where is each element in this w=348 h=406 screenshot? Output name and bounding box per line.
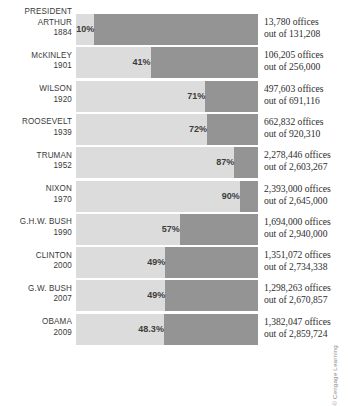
row-value-group: 1,382,047 officesout of 2,859,724 xyxy=(264,316,344,340)
chart-row: OBAMA200948.3%1,382,047 officesout of 2,… xyxy=(0,313,348,346)
bar-track: 49% xyxy=(76,247,258,278)
bar-percent-label: 49% xyxy=(76,280,169,311)
bar-track: 72% xyxy=(76,114,258,145)
row-label-group: NIXON1970 xyxy=(0,173,72,205)
offices-count: 2,278,446 offices xyxy=(264,149,344,161)
offices-count: 106,205 offices xyxy=(264,49,344,61)
label-spacer xyxy=(4,173,72,184)
offices-count: 2,393,000 offices xyxy=(264,183,344,195)
bar-percent-label: 90% xyxy=(76,181,244,212)
row-label-group: OBAMA2009 xyxy=(0,306,72,338)
row-value-group: 1,351,072 officesout of 2,734,338 xyxy=(264,249,344,273)
offices-total: out of 2,734,338 xyxy=(264,261,344,273)
bar-percent-label: 48.3% xyxy=(76,314,168,345)
offices-count: 1,694,000 offices xyxy=(264,216,344,228)
label-spacer xyxy=(4,139,72,150)
year-label: 1939 xyxy=(4,127,72,138)
year-label: 1901 xyxy=(4,60,72,71)
row-label-group: McKINLEY1901 xyxy=(0,39,72,71)
year-label: 1970 xyxy=(4,194,72,205)
bar-track: 87% xyxy=(76,147,258,178)
label-spacer xyxy=(4,73,72,84)
bar-percent-label: 72% xyxy=(76,114,211,145)
bar-remainder-segment xyxy=(165,247,258,278)
bar-track: 41% xyxy=(76,47,258,78)
row-label-group: G.H.W. BUSH1990 xyxy=(0,206,72,238)
bar-remainder-segment xyxy=(94,14,258,45)
year-label: 1920 xyxy=(4,94,72,105)
bar-remainder-segment xyxy=(164,314,258,345)
year-label: 1990 xyxy=(4,227,72,238)
label-spacer xyxy=(4,272,72,283)
bar-track: 57% xyxy=(76,214,258,245)
president-name-label: WILSON xyxy=(4,83,72,94)
offices-count: 497,603 offices xyxy=(264,83,344,95)
president-name-label: OBAMA xyxy=(4,316,72,327)
offices-count: 1,382,047 offices xyxy=(264,316,344,328)
row-label-group: G.W. BUSH2007 xyxy=(0,272,72,304)
offices-total: out of 256,000 xyxy=(264,61,344,73)
bar-track: 49% xyxy=(76,280,258,311)
president-name-label: ARTHUR xyxy=(4,17,72,28)
row-label-group: CLINTON2000 xyxy=(0,239,72,271)
offices-total: out of 131,208 xyxy=(264,28,344,40)
row-label-group: TRUMAN1952 xyxy=(0,139,72,171)
copyright-credit: © Cengage Learning xyxy=(331,345,338,406)
label-spacer xyxy=(4,206,72,217)
offices-total: out of 2,940,000 xyxy=(264,228,344,240)
row-value-group: 1,298,263 officesout of 2,670,857 xyxy=(264,282,344,306)
row-label-group: ROOSEVELT1939 xyxy=(0,106,72,138)
bar-remainder-segment xyxy=(207,114,258,145)
bar-percent-label: 57% xyxy=(76,214,184,245)
offices-count: 13,780 offices xyxy=(264,16,344,28)
offices-count: 1,351,072 offices xyxy=(264,249,344,261)
offices-count: 662,832 offices xyxy=(264,116,344,128)
chart-header-label: PRESIDENT xyxy=(4,6,72,17)
bar-remainder-segment xyxy=(205,81,258,112)
president-name-label: NIXON xyxy=(4,183,72,194)
row-value-group: 1,694,000 officesout of 2,940,000 xyxy=(264,216,344,240)
bar-percent-label: 10% xyxy=(76,14,98,45)
row-value-group: 497,603 officesout of 691,116 xyxy=(264,83,344,107)
label-spacer xyxy=(4,39,72,50)
president-name-label: TRUMAN xyxy=(4,150,72,161)
row-value-group: 2,393,000 officesout of 2,645,000 xyxy=(264,183,344,207)
bar-percent-label: 71% xyxy=(76,81,209,112)
bar-remainder-segment xyxy=(165,280,258,311)
bar-track: 10% xyxy=(76,14,258,45)
offices-total: out of 2,670,857 xyxy=(264,294,344,306)
bar-remainder-segment xyxy=(180,214,258,245)
year-label: 2000 xyxy=(4,260,72,271)
president-name-label: ROOSEVELT xyxy=(4,116,72,127)
president-name-label: G.W. BUSH xyxy=(4,283,72,294)
bar-track: 90% xyxy=(76,181,258,212)
row-value-group: 13,780 officesout of 131,208 xyxy=(264,16,344,40)
president-name-label: G.H.W. BUSH xyxy=(4,216,72,227)
row-label-group: PRESIDENTARTHUR1884 xyxy=(0,6,72,38)
offices-total: out of 2,645,000 xyxy=(264,195,344,207)
offices-total: out of 691,116 xyxy=(264,95,344,107)
row-label-group: WILSON1920 xyxy=(0,73,72,105)
bar-percent-label: 41% xyxy=(76,47,155,78)
year-label: 2007 xyxy=(4,293,72,304)
bar-percent-label: 49% xyxy=(76,247,169,278)
year-label: 2009 xyxy=(4,327,72,338)
row-value-group: 106,205 officesout of 256,000 xyxy=(264,49,344,73)
offices-total: out of 920,310 xyxy=(264,128,344,140)
bar-percent-label: 87% xyxy=(76,147,238,178)
row-value-group: 662,832 officesout of 920,310 xyxy=(264,116,344,140)
offices-total: out of 2,603,267 xyxy=(264,161,344,173)
row-value-group: 2,278,446 officesout of 2,603,267 xyxy=(264,149,344,173)
bar-remainder-segment xyxy=(151,47,258,78)
year-label: 1884 xyxy=(4,27,72,38)
bar-track: 71% xyxy=(76,81,258,112)
label-spacer xyxy=(4,239,72,250)
label-spacer xyxy=(4,306,72,317)
label-spacer xyxy=(4,106,72,117)
bar-track: 48.3% xyxy=(76,314,258,345)
president-name-label: McKINLEY xyxy=(4,50,72,61)
year-label: 1952 xyxy=(4,160,72,171)
president-name-label: CLINTON xyxy=(4,250,72,261)
offices-total: out of 2,859,724 xyxy=(264,328,344,340)
